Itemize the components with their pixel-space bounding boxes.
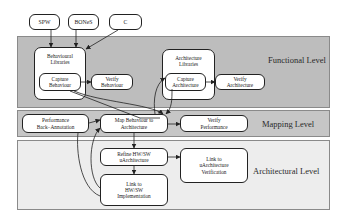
link-impl-line3: Implementation (117, 193, 151, 199)
source-spw-label: SPW (39, 19, 51, 25)
link-uarch-line3: Verification (201, 169, 226, 175)
capture-behaviour: Capture Behaviour (39, 73, 81, 91)
link-to-uarchitecture-verification: Link to uArchitecture Verification (180, 148, 248, 183)
functional-level-label: Functional Level (268, 55, 326, 65)
verify-architecture-line2: Architecture (227, 82, 253, 88)
refine-hwsw-line2: uArchitecture (119, 157, 148, 163)
source-spw: SPW (29, 14, 60, 30)
map-behaviour-to-architecture: Map Behaviour to Architecture (100, 114, 168, 133)
link-to-hwsw-implementation: Link to HW/SW Implementation (100, 174, 168, 206)
refine-hwsw-uarchitecture: Refine HW/SW uArchitecture (100, 148, 168, 166)
source-bones-label: BONeS (74, 19, 92, 25)
verify-behaviour-line2: Behaviour (101, 82, 123, 88)
capture-architecture: Capture Architecture (165, 73, 206, 91)
mapping-level-label: Mapping Level (262, 119, 314, 129)
verify-performance: Verify Performance (180, 115, 248, 132)
source-bones: BONeS (68, 14, 99, 30)
verify-behaviour: Verify Behaviour (91, 74, 133, 90)
capture-behaviour-line2: Behaviour (49, 82, 71, 88)
capture-architecture-line2: Architecture (172, 82, 198, 88)
performance-back-annotation: Performance Back−Annotation (22, 114, 89, 133)
architecture-libraries-line2: Libraries (179, 61, 198, 67)
source-c-label: C (124, 19, 128, 25)
behavioural-libraries-line2: Libraries (50, 59, 69, 65)
verify-architecture: Verify Architecture (215, 74, 265, 90)
performance-back-annotation-line2: Back−Annotation (37, 124, 75, 130)
architectural-level-label: Architectural Level (253, 166, 319, 176)
verify-performance-line2: Performance (200, 124, 227, 130)
source-c: C (109, 14, 142, 30)
map-behaviour-line2: Architecture (121, 124, 147, 130)
